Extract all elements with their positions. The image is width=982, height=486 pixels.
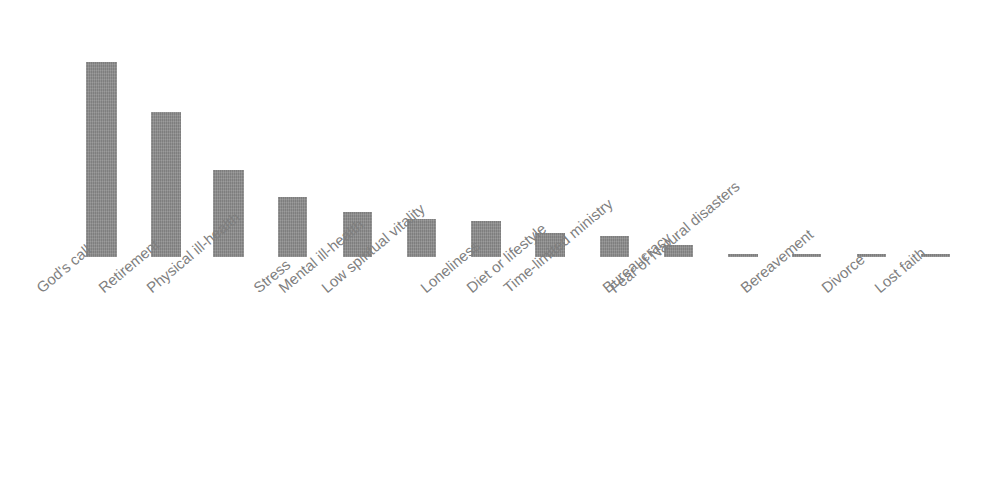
bar — [151, 112, 181, 257]
bar — [728, 254, 758, 257]
bar-chart: Relative Importance God's callRetirement… — [0, 0, 982, 486]
bar — [278, 197, 307, 257]
plot-area — [0, 0, 982, 258]
bar — [600, 236, 629, 257]
bar — [86, 62, 117, 257]
